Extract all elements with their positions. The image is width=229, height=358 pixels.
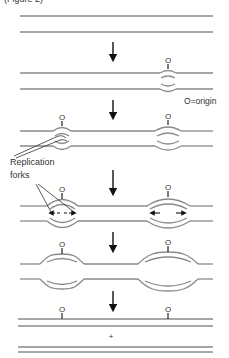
- origin-marker: O: [59, 113, 65, 122]
- figure-title: (Figure 2): [4, 0, 43, 4]
- origin-marker: O: [165, 112, 171, 121]
- stage-2-origin-opening: [20, 64, 213, 92]
- origin-marker: O: [165, 305, 171, 314]
- origin-marker: O: [59, 185, 65, 194]
- replication-forks-label-line2: forks: [10, 170, 30, 180]
- origin-marker: O: [165, 238, 171, 247]
- fork-pointer-lines: [36, 184, 74, 212]
- replication-forks-label-line1: Replication: [10, 157, 55, 167]
- stage-1-parental-duplex: [20, 16, 213, 32]
- dna-replication-diagram: (Figure 2) O O=origin O: [0, 0, 229, 358]
- origin-marker: O: [165, 183, 171, 192]
- stage-4-bidirectional-forks: [20, 191, 213, 228]
- plus-sign: +: [109, 332, 114, 341]
- origin-marker: O: [59, 240, 65, 249]
- origin-legend: O=origin: [184, 96, 217, 106]
- stage-3-two-bubbles: [20, 120, 213, 150]
- origin-marker: O: [165, 56, 171, 65]
- stage-5-bubbles-enlarging: [20, 246, 213, 291]
- origin-marker: O: [59, 305, 65, 314]
- stage-6-daughter-duplexes: [18, 313, 213, 352]
- fork-pointer: [14, 136, 67, 158]
